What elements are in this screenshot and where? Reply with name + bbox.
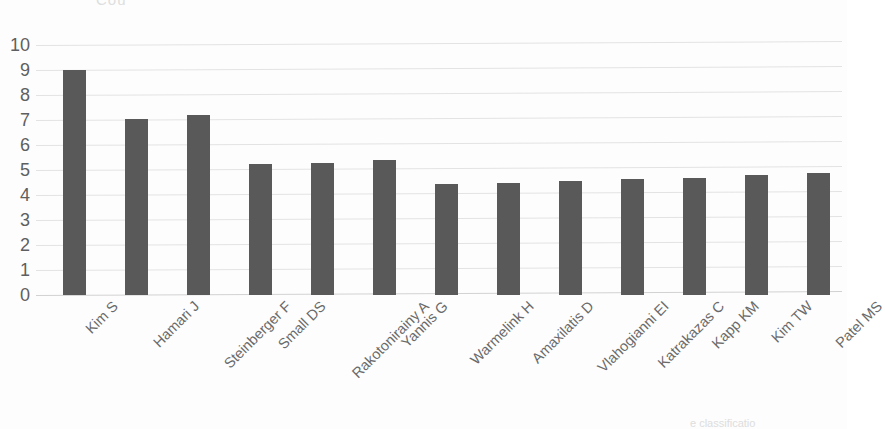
y-axis-tick-label: 2 (0, 236, 30, 254)
y-axis-tick-label: 5 (0, 161, 30, 179)
y-axis-tick-label: 7 (0, 111, 30, 129)
x-axis-category-label: Warmelink H (467, 298, 537, 368)
bar (63, 70, 86, 295)
bar (187, 115, 210, 295)
bar (807, 173, 830, 296)
bar (559, 181, 582, 295)
y-axis-tick-label: 3 (0, 211, 30, 229)
clipped-caption-text: e classificatio (690, 417, 847, 429)
x-axis-category-label: Hamari J (149, 298, 201, 350)
bar (621, 179, 644, 295)
clipped-title-text: Cou (96, 0, 216, 9)
bar (435, 184, 458, 295)
y-axis-tick-label: 10 (0, 36, 30, 54)
bar (249, 164, 272, 295)
y-axis-tick-label: 0 (0, 286, 30, 304)
bars-layer (36, 45, 842, 295)
y-axis-tick-label: 1 (0, 261, 30, 279)
x-axis-category-label: Patel MS (832, 298, 885, 351)
x-axis-category-label: Kim TW (768, 298, 816, 346)
x-axis: Kim SHamari JSteinberger FSmall DSRakoto… (36, 298, 842, 408)
y-axis-tick-label: 8 (0, 86, 30, 104)
y-axis-tick-label: 9 (0, 61, 30, 79)
x-axis-category-label: Amaxilatis D (528, 298, 596, 366)
bar (745, 175, 768, 295)
x-axis-category-label: Kim S (82, 298, 121, 337)
bar (125, 119, 148, 295)
bar (683, 178, 706, 296)
bar (497, 183, 520, 296)
y-axis: 109876543210 (0, 45, 30, 295)
y-axis-tick-label: 6 (0, 136, 30, 154)
y-axis-tick-label: 4 (0, 186, 30, 204)
bar (311, 163, 334, 296)
bar (373, 160, 396, 295)
